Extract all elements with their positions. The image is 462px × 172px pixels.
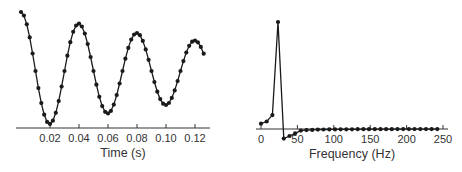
data-point [126, 46, 130, 50]
data-point [36, 86, 40, 90]
data-point [22, 13, 26, 17]
data-point [407, 127, 411, 131]
data-point [112, 103, 116, 107]
data-point [304, 128, 308, 132]
data-point [395, 127, 399, 131]
data-point [367, 127, 371, 131]
data-point [60, 85, 64, 89]
data-point [65, 54, 69, 58]
data-point [129, 38, 133, 42]
data-point [181, 59, 185, 63]
x-tick-label: 150 [361, 133, 379, 145]
data-point [378, 127, 382, 131]
data-point [39, 101, 43, 105]
data-point [141, 39, 145, 43]
data-point [120, 69, 124, 73]
data-point [155, 90, 159, 94]
data-point [170, 96, 174, 100]
data-point [361, 127, 365, 131]
time-x-axis-label: Time (s) [100, 146, 145, 160]
data-point [435, 127, 439, 131]
data-point [184, 50, 188, 54]
data-point [109, 109, 113, 113]
data-point [97, 95, 101, 99]
data-point [62, 69, 66, 73]
freq-x-axis-label: Frequency (Hz) [309, 147, 395, 161]
data-point [293, 131, 297, 135]
data-point [28, 35, 32, 39]
x-tick-label: 0 [258, 133, 264, 145]
data-point [287, 134, 291, 138]
data-point [282, 137, 286, 141]
data-point [299, 129, 303, 133]
data-point [333, 127, 337, 131]
data-point [339, 127, 343, 131]
x-tick-label: 0.12 [184, 132, 205, 144]
data-point [401, 127, 405, 131]
spectrum-line [261, 22, 437, 139]
data-point [173, 88, 177, 92]
data-point [123, 57, 127, 61]
data-point [152, 80, 156, 84]
data-point [68, 40, 72, 44]
figure: 0.020.040.060.080.100.12 Time (s) 050100… [0, 0, 462, 172]
x-tick-label: 0.02 [39, 132, 60, 144]
data-point [158, 97, 162, 101]
x-tick-label: 0.10 [155, 132, 176, 144]
data-point [25, 22, 29, 26]
data-point [149, 69, 153, 73]
data-point [100, 104, 104, 108]
x-tick-label: 100 [325, 133, 343, 145]
data-point [94, 83, 98, 87]
data-point [86, 42, 90, 46]
data-point [259, 122, 263, 126]
data-point [373, 127, 377, 131]
data-point [344, 127, 348, 131]
data-point [176, 79, 180, 83]
x-tick-label: 0.08 [126, 132, 147, 144]
freq-x-ticks: 050100150200250 [258, 125, 452, 145]
x-tick-label: 0.04 [68, 132, 89, 144]
data-point [430, 127, 434, 131]
data-point [167, 101, 171, 105]
x-tick-label: 0.06 [97, 132, 118, 144]
data-point [310, 128, 314, 132]
data-point [33, 69, 37, 73]
data-point [178, 69, 182, 73]
x-tick-label: 250 [434, 133, 452, 145]
data-point [54, 111, 58, 115]
time-x-ticks: 0.020.040.060.080.100.12 [39, 124, 205, 144]
data-point [147, 58, 151, 62]
time-signal-line [21, 12, 204, 124]
data-point [51, 119, 55, 123]
data-point [350, 127, 354, 131]
data-point [187, 44, 191, 48]
data-point [138, 33, 142, 37]
data-point [30, 51, 34, 55]
data-point [276, 20, 280, 24]
data-point [327, 127, 331, 131]
data-point [199, 45, 203, 49]
data-point [316, 128, 320, 132]
data-point [412, 127, 416, 131]
data-point [390, 127, 394, 131]
data-point [202, 52, 206, 56]
data-point [91, 69, 95, 73]
data-point [265, 119, 269, 123]
data-point [71, 30, 75, 34]
data-point [115, 93, 119, 97]
time-domain-chart: 0.020.040.060.080.100.12 Time (s) [16, 10, 210, 160]
data-point [80, 24, 84, 28]
data-point [19, 10, 23, 14]
data-point [89, 55, 93, 59]
data-point [270, 113, 274, 117]
data-point [418, 127, 422, 131]
spectrum-markers [259, 20, 440, 141]
data-point [57, 99, 61, 103]
data-point [196, 40, 200, 44]
data-point [424, 127, 428, 131]
data-point [48, 122, 52, 126]
data-point [118, 81, 122, 85]
x-tick-label: 200 [397, 133, 415, 145]
frequency-spectrum-chart: 050100150200250 Frequency (Hz) [256, 20, 452, 161]
